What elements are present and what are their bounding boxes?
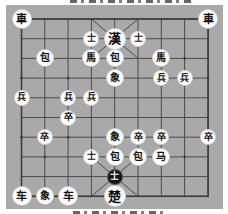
piece-bottom-chariot[interactable]: 车	[59, 187, 77, 205]
piece-bottom-soldier[interactable]: 卒	[154, 130, 168, 144]
piece-top-cannon[interactable]: 包	[37, 50, 53, 66]
piece-bottom-chariot[interactable]: 车	[13, 187, 31, 205]
piece-top-soldier[interactable]: 兵	[84, 91, 98, 105]
piece-top-elephant[interactable]: 象	[107, 70, 123, 86]
piece-top-cannon[interactable]: 包	[107, 50, 123, 66]
piece-top-horse[interactable]: 馬	[153, 50, 169, 66]
piece-top-advisor[interactable]: 士	[84, 32, 98, 46]
piece-bottom-soldier[interactable]: 卒	[61, 111, 75, 125]
piece-bottom-elephant[interactable]: 象	[107, 129, 123, 145]
piece-top-chariot[interactable]: 車	[199, 10, 217, 28]
piece-top-general[interactable]: 漢	[105, 29, 125, 49]
piece-bottom-cannon[interactable]: 包	[107, 149, 123, 165]
piece-bottom-soldier[interactable]: 卒	[38, 130, 52, 144]
piece-bottom-soldier[interactable]: 卒	[131, 130, 145, 144]
piece-bottom-advisor[interactable]: 士	[84, 150, 98, 164]
piece-bottom-elephant[interactable]: 象	[37, 188, 53, 204]
piece-bottom-general[interactable]: 楚	[105, 186, 125, 206]
piece-bottom-soldier[interactable]: 卒	[201, 130, 215, 144]
piece-bottom-advisor-selected[interactable]: 士	[108, 170, 122, 184]
piece-top-soldier[interactable]: 兵	[154, 71, 168, 85]
piece-top-advisor[interactable]: 士	[131, 32, 145, 46]
piece-top-horse[interactable]: 馬	[83, 50, 99, 66]
piece-top-soldier[interactable]: 兵	[61, 91, 75, 105]
piece-bottom-horse[interactable]: 马	[153, 149, 169, 165]
piece-bottom-cannon[interactable]: 包	[130, 149, 146, 165]
pieces-layer: 車車士漢士包馬包馬象兵兵兵兵兵卒卒象卒卒卒士包包马士车象车楚	[0, 0, 228, 214]
piece-top-soldier[interactable]: 兵	[178, 71, 192, 85]
piece-top-chariot[interactable]: 車	[13, 10, 31, 28]
piece-top-soldier[interactable]: 兵	[15, 91, 29, 105]
